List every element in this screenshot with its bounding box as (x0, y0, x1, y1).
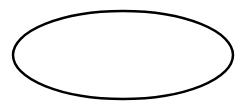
ellipse-shape[interactable] (13, 11, 233, 99)
diagram-canvas (0, 0, 246, 109)
